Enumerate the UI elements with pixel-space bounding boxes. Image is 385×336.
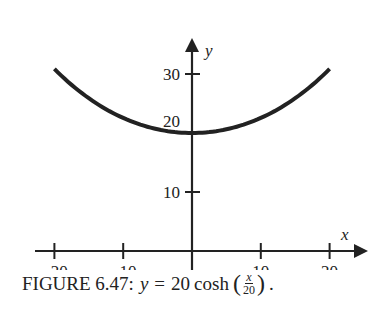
y-axis-arrow-icon [185,38,199,52]
caption-prefix: FIGURE 6.47: [22,273,134,295]
y-tick-label: 30 [163,65,180,84]
caption-coef: 20 [171,273,190,295]
y-tick-label: 20 [163,112,180,131]
catenary-plot: −20−101020 102030 x y [0,0,385,270]
x-tick-label: −10 [110,262,137,270]
x-ticks: −20−101020 [41,243,338,270]
x-axis [35,244,368,258]
caption-lparen: ( [233,270,241,297]
caption-fraction: x 20 [243,271,255,296]
x-tick-label: 10 [252,262,269,270]
caption-frac-den: 20 [243,284,255,296]
caption-eq: = [154,273,165,295]
x-axis-arrow-icon [354,244,368,258]
x-axis-label: x [340,225,349,244]
x-tick-label: 20 [321,262,338,270]
y-tick-label: 10 [163,183,180,202]
y-axis [185,38,199,270]
y-axis-label: y [203,41,213,60]
caption-suffix: . [269,273,274,295]
caption-lhs: y [140,273,148,295]
caption-func: cosh [194,273,229,295]
figure-caption: FIGURE 6.47: y = 20 cosh ( x 20 ) . [22,270,274,297]
caption-rparen: ) [257,270,265,297]
x-tick-label: −20 [41,262,68,270]
